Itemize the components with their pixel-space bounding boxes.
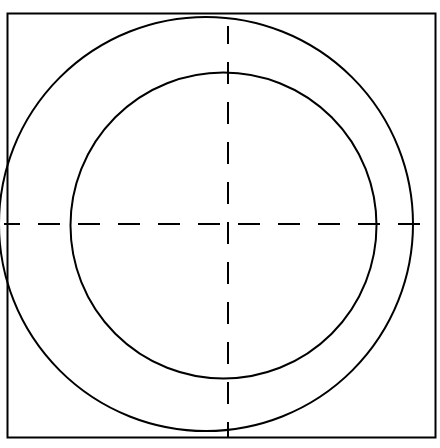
border-frame [8, 14, 436, 438]
technical-drawing-canvas [0, 0, 440, 448]
inner-circle [71, 73, 377, 379]
drawing-viewport [0, 0, 440, 448]
